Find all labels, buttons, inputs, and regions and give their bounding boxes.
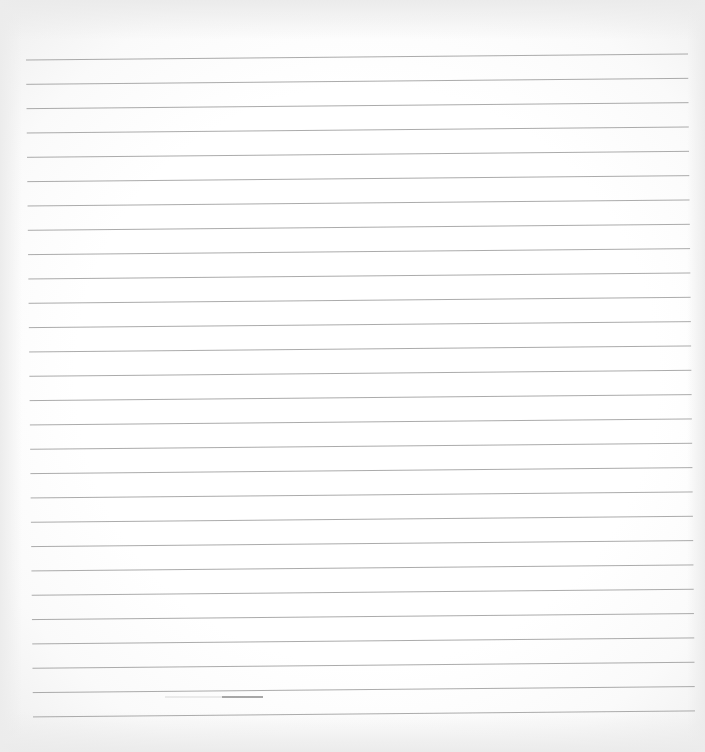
- ruled-line: [31, 516, 693, 522]
- ruled-line: [32, 614, 694, 620]
- ruled-line: [26, 78, 688, 84]
- ruled-lines: [0, 0, 705, 752]
- ruled-line: [33, 687, 695, 693]
- ruled-line: [30, 419, 692, 425]
- ruled-line: [28, 273, 690, 279]
- ruled-line: [30, 443, 692, 449]
- ruled-line: [28, 249, 690, 255]
- ruled-line: [27, 103, 689, 109]
- ruled-line: [27, 176, 689, 182]
- notebook-paper: [0, 0, 705, 752]
- ruled-line: [30, 468, 692, 474]
- ruled-line: [29, 297, 691, 303]
- ruled-line: [28, 224, 690, 230]
- ruled-line: [28, 200, 690, 206]
- ruled-line: [32, 662, 694, 668]
- ruled-line: [32, 638, 694, 644]
- ruled-line: [33, 711, 695, 717]
- ruled-line: [29, 346, 691, 352]
- ruled-line: [29, 322, 691, 328]
- ruled-line: [27, 127, 689, 133]
- ruled-line: [29, 370, 691, 376]
- ruled-line: [26, 54, 688, 60]
- ruled-line: [31, 565, 693, 571]
- ruled-line: [30, 395, 692, 401]
- ruled-line: [31, 492, 693, 498]
- ruled-line: [32, 589, 694, 595]
- ruled-line: [27, 151, 689, 157]
- ruled-line: [31, 541, 693, 547]
